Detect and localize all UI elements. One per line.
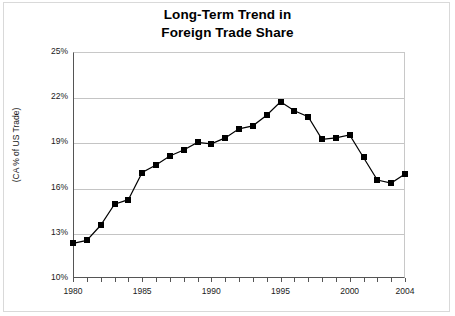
data-point-marker [361,154,367,160]
x-tick-label: 1980 [53,287,93,296]
x-tick-mark [377,278,378,282]
data-point-marker [305,114,311,120]
x-tick-mark [198,278,199,282]
data-point-marker [402,171,408,177]
data-point-marker [167,153,173,159]
y-tick-label: 16% [30,183,68,192]
x-tick-mark [253,278,254,282]
data-point-marker [139,170,145,176]
data-point-marker [333,135,339,141]
x-tick-mark [322,278,323,282]
chart-page: Long-Term Trend in Foreign Trade Share 2… [0,0,455,316]
x-tick-mark [225,278,226,282]
x-tick-mark [87,278,88,282]
data-point-marker [374,177,380,183]
x-tick-mark [364,278,365,282]
x-tick-label: 2000 [330,287,370,296]
data-point-marker [181,147,187,153]
x-tick-mark [170,278,171,282]
x-tick-label: 1990 [191,287,231,296]
data-point-marker [250,123,256,129]
x-tick-mark [405,278,406,282]
x-tick-mark [239,278,240,282]
data-point-marker [278,99,284,105]
x-tick-mark [101,278,102,282]
x-tick-mark [184,278,185,282]
data-point-marker [208,141,214,147]
y-tick-label: 22% [30,92,68,101]
x-tick-mark [391,278,392,282]
x-tick-label: 2004 [385,287,425,296]
data-point-marker [264,112,270,118]
data-point-marker [347,132,353,138]
x-tick-mark [336,278,337,282]
data-point-marker [125,197,131,203]
x-tick-mark [156,278,157,282]
x-tick-mark [73,278,74,282]
y-tick-label: 13% [30,228,68,237]
data-point-marker [112,201,118,207]
data-point-marker [195,139,201,145]
x-tick-label: 1985 [122,287,162,296]
y-tick-label: 19% [30,137,68,146]
data-point-marker [319,136,325,142]
data-point-marker [388,180,394,186]
x-tick-mark [350,278,351,282]
x-tick-mark [281,278,282,282]
y-tick-label: 10% [30,273,68,282]
data-point-marker [98,222,104,228]
x-tick-mark [294,278,295,282]
data-point-marker [70,240,76,246]
x-tick-mark [142,278,143,282]
data-point-marker [153,162,159,168]
x-tick-mark [211,278,212,282]
x-tick-mark [267,278,268,282]
y-axis-tick-labels: 25%22%19%16%13%10% [0,0,455,316]
data-point-marker [236,126,242,132]
y-axis-title: (CA % of US Trade) [11,70,21,220]
x-tick-mark [115,278,116,282]
data-point-marker [291,108,297,114]
data-point-marker [222,135,228,141]
data-point-marker [84,237,90,243]
x-tick-label: 1995 [261,287,301,296]
x-tick-mark [128,278,129,282]
x-tick-mark [308,278,309,282]
y-tick-label: 25% [30,47,68,56]
